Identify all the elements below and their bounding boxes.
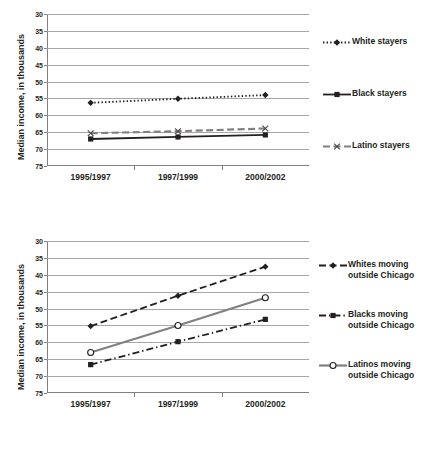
x-tick-label: 2000/2002	[245, 173, 285, 182]
data-point-marker	[175, 293, 181, 299]
legend-item: Black stayers	[322, 88, 410, 138]
x-tick-mark	[222, 166, 223, 170]
legend-label: Latino stayers	[352, 140, 410, 151]
legend-key-x-icon	[322, 141, 352, 152]
data-point-marker	[330, 313, 335, 318]
y-axis-title: Median income, in thousands	[16, 34, 26, 160]
y-tick-label: 55	[35, 95, 43, 102]
y-tick-label: 70	[35, 373, 43, 380]
data-point-marker	[88, 349, 94, 355]
legend-label: Whites moving outside Chicago	[348, 259, 414, 280]
y-tick-label: 75	[35, 390, 43, 397]
legend-label: Latinos moving outside Chicago	[348, 359, 414, 380]
data-point-marker	[263, 132, 268, 137]
data-point-marker	[88, 362, 93, 367]
x-tick-mark	[134, 393, 135, 397]
data-point-marker	[330, 363, 336, 369]
chart-stayers: Median income, in thousands 757065605550…	[0, 0, 437, 227]
y-tick-label: 30	[35, 11, 43, 18]
legend-item: White stayers	[322, 36, 410, 86]
y-tick-label: 65	[35, 356, 43, 363]
y-tick-label: 35	[35, 254, 43, 261]
plot-area-movers: 75706560555045403530 1995/19971997/19992…	[47, 241, 309, 393]
legend-label: White stayers	[352, 36, 407, 47]
y-tick-label: 75	[35, 163, 43, 170]
y-tick-label: 30	[35, 238, 43, 245]
series-lines	[47, 241, 309, 393]
legend-key-square-icon	[318, 310, 348, 321]
legend-item: Blacks moving outside Chicago	[318, 309, 414, 357]
legend-key-diamond-icon	[318, 260, 348, 271]
data-point-marker	[87, 323, 93, 329]
data-point-marker	[175, 134, 180, 139]
data-point-marker	[334, 39, 340, 45]
x-tick-label: 2000/2002	[245, 400, 285, 409]
y-tick-label: 40	[35, 271, 43, 278]
legend-movers: Whites moving outside ChicagoBlacks movi…	[318, 259, 414, 409]
data-point-marker	[262, 92, 268, 98]
x-tick-label: 1997/1999	[158, 173, 198, 182]
legend-item: Whites moving outside Chicago	[318, 259, 414, 307]
x-tick-label: 1995/1997	[71, 173, 111, 182]
y-tick-label: 50	[35, 305, 43, 312]
x-tick-mark	[134, 166, 135, 170]
legend-item: Latino stayers	[322, 140, 410, 190]
legend-key-circle-open-icon	[318, 360, 348, 371]
data-point-marker	[175, 339, 180, 344]
data-point-marker	[175, 96, 181, 102]
y-tick-label: 40	[35, 44, 43, 51]
data-point-marker	[262, 295, 268, 301]
data-point-marker	[88, 136, 93, 141]
y-tick-mark	[44, 393, 47, 394]
y-tick-label: 45	[35, 288, 43, 295]
legend-item: Latinos moving outside Chicago	[318, 359, 414, 407]
y-tick-label: 60	[35, 339, 43, 346]
legend-key-diamond-icon	[322, 37, 352, 48]
data-point-marker	[263, 317, 268, 322]
x-tick-mark	[222, 393, 223, 397]
y-tick-label: 55	[35, 322, 43, 329]
y-tick-label: 45	[35, 61, 43, 68]
x-tick-label: 1995/1997	[71, 400, 111, 409]
y-tick-label: 65	[35, 129, 43, 136]
y-tick-label: 50	[35, 78, 43, 85]
legend-label: Black stayers	[352, 88, 407, 99]
data-point-marker	[262, 263, 268, 269]
x-tick-label: 1997/1999	[158, 400, 198, 409]
y-tick-mark	[44, 166, 47, 167]
data-point-marker	[330, 262, 336, 268]
plot-area-stayers: 75706560555045403530 1995/19971997/19992…	[47, 14, 309, 166]
series-lines	[47, 14, 309, 166]
data-point-marker	[175, 322, 181, 328]
y-tick-label: 60	[35, 112, 43, 119]
y-axis-title: Median income, in thousands	[16, 264, 26, 390]
legend-label: Blacks moving outside Chicago	[348, 309, 414, 330]
legend-key-square-icon	[322, 89, 352, 100]
legend-stayers: White stayersBlack stayersLatino stayers	[322, 36, 410, 192]
data-point-marker	[334, 92, 339, 97]
chart-movers-outside-chicago: Median income, in thousands 757065605550…	[0, 227, 437, 454]
data-point-marker	[87, 100, 93, 106]
y-tick-label: 35	[35, 27, 43, 34]
y-tick-label: 70	[35, 146, 43, 153]
